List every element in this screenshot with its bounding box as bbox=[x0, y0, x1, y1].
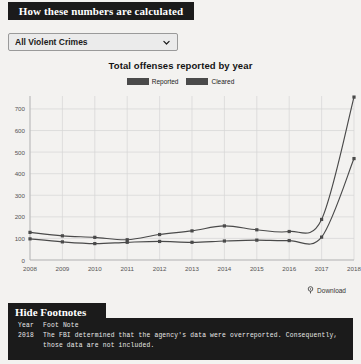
data-point-marker[interactable] bbox=[190, 241, 193, 244]
data-point-marker[interactable] bbox=[28, 231, 31, 234]
y-axis-tick-label: 500 bbox=[15, 149, 26, 156]
data-point-marker[interactable] bbox=[158, 240, 161, 243]
download-link[interactable]: Download bbox=[307, 286, 346, 294]
x-axis-tick-label: 2013 bbox=[185, 265, 199, 272]
data-point-marker[interactable] bbox=[61, 234, 64, 237]
x-axis-tick-label: 2012 bbox=[153, 265, 167, 272]
data-point-marker[interactable] bbox=[255, 228, 258, 231]
data-point-marker[interactable] bbox=[223, 224, 226, 227]
download-label: Download bbox=[317, 287, 346, 294]
data-point-marker[interactable] bbox=[126, 241, 129, 244]
data-point-marker[interactable] bbox=[352, 157, 355, 160]
y-axis-tick-label: 200 bbox=[15, 213, 26, 220]
data-point-marker[interactable] bbox=[288, 230, 291, 233]
x-axis-tick-label: 2017 bbox=[315, 265, 329, 272]
legend-label-cleared: Cleared bbox=[211, 78, 234, 85]
y-axis-tick-label: 300 bbox=[15, 192, 26, 199]
data-point-marker[interactable] bbox=[223, 239, 226, 242]
legend-swatch-cleared bbox=[186, 78, 208, 85]
data-point-marker[interactable] bbox=[352, 95, 355, 98]
data-point-marker[interactable] bbox=[190, 229, 193, 232]
x-axis-tick-label: 2010 bbox=[88, 265, 102, 272]
download-pin-icon bbox=[307, 286, 314, 294]
hide-footnotes-button[interactable]: Hide Footnotes bbox=[8, 303, 106, 320]
line-chart-svg: 0100200300400500600700200820092010201120… bbox=[0, 88, 361, 288]
data-point-marker[interactable] bbox=[28, 237, 31, 240]
y-axis-tick-label: 0 bbox=[22, 257, 26, 264]
footnotes-col-note: Foot Note bbox=[43, 321, 353, 331]
chart-container: Total offenses reported by year Reported… bbox=[0, 58, 361, 298]
footnotes-header-row: Year Foot Note bbox=[18, 321, 353, 331]
x-axis-tick-label: 2009 bbox=[56, 265, 70, 272]
data-point-marker[interactable] bbox=[61, 240, 64, 243]
y-axis-tick-label: 600 bbox=[15, 127, 26, 134]
footnote-row: 2018 The FBI determined that the agency'… bbox=[18, 331, 353, 341]
legend-item-cleared[interactable]: Cleared bbox=[186, 78, 234, 85]
data-point-marker[interactable] bbox=[320, 218, 323, 221]
how-calculated-banner-label: How these numbers are calculated bbox=[19, 5, 183, 17]
data-point-marker[interactable] bbox=[93, 242, 96, 245]
crime-type-select[interactable]: All Violent Crimes bbox=[8, 33, 178, 51]
chart-legend: Reported Cleared bbox=[0, 77, 361, 86]
y-axis-tick-label: 100 bbox=[15, 235, 26, 242]
plot-area: 0100200300400500600700200820092010201120… bbox=[0, 88, 361, 288]
footnote-row-year: 2018 bbox=[18, 331, 38, 341]
data-point-marker[interactable] bbox=[288, 239, 291, 242]
legend-label-reported: Reported bbox=[152, 78, 179, 85]
chevron-down-icon bbox=[162, 38, 171, 47]
hide-footnotes-label: Hide Footnotes bbox=[15, 306, 86, 318]
footnote-row-continuation: those data are not included. bbox=[18, 341, 353, 351]
footnotes-panel: Year Foot Note 2018 The FBI determined t… bbox=[8, 318, 353, 360]
crime-type-select-value: All Violent Crimes bbox=[15, 37, 162, 47]
x-axis-tick-label: 2008 bbox=[23, 265, 37, 272]
data-point-marker[interactable] bbox=[93, 236, 96, 239]
legend-swatch-reported bbox=[127, 78, 149, 85]
x-axis-tick-label: 2014 bbox=[218, 265, 232, 272]
x-axis-tick-label: 2015 bbox=[250, 265, 264, 272]
footnotes-col-year: Year bbox=[18, 321, 38, 331]
x-axis-tick-label: 2011 bbox=[121, 265, 135, 272]
data-point-marker[interactable] bbox=[320, 236, 323, 239]
y-axis-tick-label: 400 bbox=[15, 170, 26, 177]
x-axis-tick-label: 2018 bbox=[347, 265, 361, 272]
footnote-row-note: The FBI determined that the agency's dat… bbox=[43, 331, 353, 341]
y-axis-tick-label: 700 bbox=[15, 105, 26, 112]
x-axis-tick-label: 2016 bbox=[282, 265, 296, 272]
data-point-marker[interactable] bbox=[255, 239, 258, 242]
chart-title: Total offenses reported by year bbox=[0, 58, 361, 71]
how-calculated-banner[interactable]: How these numbers are calculated bbox=[8, 2, 194, 20]
data-point-marker[interactable] bbox=[158, 233, 161, 236]
legend-item-reported[interactable]: Reported bbox=[127, 78, 179, 85]
